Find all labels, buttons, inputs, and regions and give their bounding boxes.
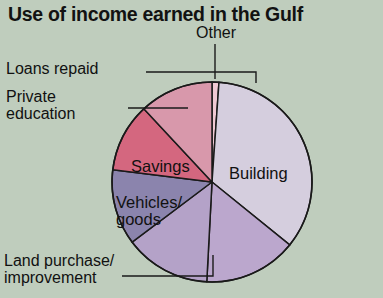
slice-label-savings: Savings bbox=[131, 158, 190, 175]
slice-label-building: Building bbox=[229, 165, 288, 182]
slice-label-vehicles-goods: Vehicles/ goods bbox=[116, 194, 182, 228]
slice-label-other: Other bbox=[196, 24, 236, 41]
leader-line-loans-repaid bbox=[146, 72, 256, 83]
slice-label-land-purchase: Land purchase/ improvement bbox=[4, 252, 114, 286]
pie-chart-figure: Use of income earned in the Gulf Other L… bbox=[0, 0, 383, 298]
slice-label-private-education: Private education bbox=[6, 88, 75, 122]
slice-label-loans-repaid: Loans repaid bbox=[6, 60, 99, 77]
